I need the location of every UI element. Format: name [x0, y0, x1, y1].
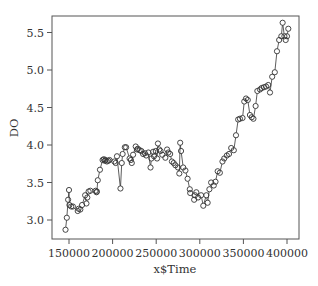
data-point: [66, 197, 71, 202]
y-tick-label: 3.0: [27, 214, 45, 227]
data-point: [63, 227, 68, 232]
data-point: [253, 103, 258, 108]
series-segment: [121, 166, 122, 186]
data-point: [95, 178, 100, 183]
data-point: [233, 133, 238, 138]
data-point: [286, 26, 291, 31]
y-tick-label: 4.0: [27, 139, 45, 152]
series-segment: [254, 109, 255, 117]
series-segment: [236, 122, 237, 133]
data-point: [177, 171, 182, 176]
data-point: [88, 188, 93, 193]
series-segment: [202, 198, 203, 203]
data-point: [120, 151, 125, 156]
series-segment: [234, 138, 235, 148]
series-segment: [186, 173, 187, 176]
series-segment: [275, 54, 277, 70]
data-point: [178, 148, 183, 153]
y-tick-label: 5.0: [27, 64, 45, 77]
data-point: [185, 176, 190, 181]
data-point: [205, 200, 210, 205]
series-segment: [216, 174, 217, 179]
y-tick-label: 4.5: [27, 102, 45, 115]
series-segment: [188, 181, 189, 186]
y-tick-label: 5.5: [27, 27, 45, 40]
x-axis: 150000200000250000300000350000400000: [48, 239, 308, 260]
data-point: [129, 160, 134, 165]
series-line: [66, 25, 288, 227]
data-point: [274, 49, 279, 54]
series-segment: [282, 25, 283, 33]
x-tick-label: 400000: [266, 247, 308, 260]
data-point: [64, 215, 69, 220]
x-tick-label: 350000: [222, 247, 264, 260]
y-axis: 3.03.54.04.55.05.5: [27, 27, 53, 228]
series-segment: [243, 104, 244, 115]
data-point: [280, 20, 285, 25]
data-point: [66, 187, 71, 192]
x-tick-label: 200000: [92, 247, 134, 260]
data-point: [204, 193, 209, 198]
data-point: [163, 155, 168, 160]
data-point: [178, 140, 183, 145]
scatter-line-chart: 3.03.54.04.55.05.5 150000200000250000300…: [0, 0, 318, 286]
series-segment: [256, 94, 257, 104]
data-point: [272, 70, 277, 75]
series-points: [63, 20, 291, 232]
x-tick-label: 150000: [48, 247, 90, 260]
series-segment: [283, 25, 284, 33]
data-point: [148, 165, 153, 170]
x-tick-label: 250000: [135, 247, 177, 260]
series-segment: [117, 159, 120, 186]
y-axis-label: DO: [7, 119, 21, 138]
y-tick-label: 3.5: [27, 177, 45, 190]
series-segment: [181, 154, 182, 165]
data-point: [207, 187, 212, 192]
series-segment: [220, 164, 221, 170]
data-point: [119, 160, 124, 165]
series-segment: [277, 43, 278, 49]
data-point: [97, 167, 102, 172]
x-axis-label: x$Time: [154, 262, 197, 276]
series-segment: [66, 220, 67, 227]
series-segment: [98, 172, 99, 177]
data-point: [267, 90, 272, 95]
series-segment: [101, 163, 102, 168]
plot-frame: [52, 16, 299, 239]
series-segment: [127, 150, 129, 156]
data-point: [112, 159, 117, 164]
data-point: [130, 152, 135, 157]
series-segment: [248, 103, 249, 113]
data-point: [155, 141, 160, 146]
x-tick-label: 300000: [179, 247, 221, 260]
data-point: [114, 154, 119, 159]
data-point: [118, 186, 123, 191]
